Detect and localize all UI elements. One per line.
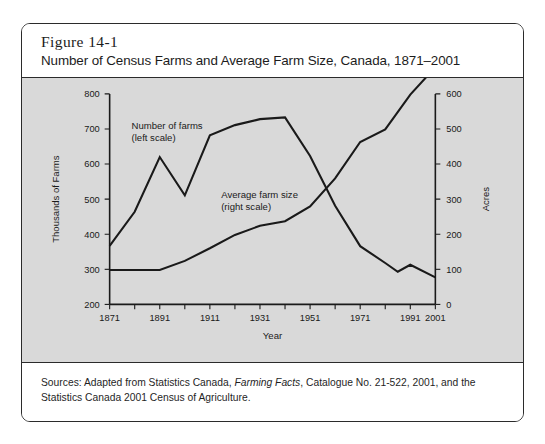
y-axis-left-title: Thousands of Farms <box>50 155 61 243</box>
x-axis-tick-label: 2001 <box>425 313 446 323</box>
source-publication-title: Farming Facts <box>234 377 300 388</box>
y-axis-left-tick-label: 700 <box>84 124 99 134</box>
y-axis-right-tick-label: 400 <box>446 159 461 169</box>
y-axis-right-tick-label: 0 <box>446 300 451 310</box>
page-title: Number of Census Farms and Average Farm … <box>41 51 523 70</box>
y-axis-right-tick-label: 100 <box>446 265 461 275</box>
x-axis-tick-label: 1891 <box>149 313 170 323</box>
y-axis-right-tick-label: 200 <box>446 230 461 240</box>
y-axis-left-tick-label: 200 <box>84 300 99 310</box>
source-note: Sources: Adapted from Statistics Canada,… <box>41 375 501 405</box>
y-axis-right-title: Acres <box>480 187 491 212</box>
figure-number: Figure 14-1 <box>41 32 523 51</box>
figure-source-band: Sources: Adapted from Statistics Canada,… <box>22 363 523 421</box>
x-axis-tick-label: 1911 <box>200 313 220 323</box>
series-annotation-average-farm-size: Average farm size <box>221 189 298 200</box>
y-axis-left-tick-label: 400 <box>84 230 99 240</box>
y-axis-left-tick-label: 300 <box>84 265 99 275</box>
chart-series <box>110 78 436 277</box>
source-prefix: Sources: Adapted from Statistics Canada, <box>41 377 234 388</box>
chart-plot-panel: 2003004005006007008000100200300400500600… <box>22 77 523 363</box>
x-axis-tick-label: 1871 <box>99 313 120 323</box>
x-axis-tick-label: 1971 <box>350 313 371 323</box>
y-axis-left-tick-label: 800 <box>84 89 99 99</box>
x-axis-tick-label: 1991 <box>400 313 421 323</box>
y-axis-right-tick-label: 600 <box>446 89 461 99</box>
series-annotation-average-farm-size-scale: (right scale) <box>221 201 271 212</box>
figure-title-band: Figure 14-1 Number of Census Farms and A… <box>22 24 523 77</box>
y-axis-right-tick-label: 300 <box>446 195 461 205</box>
chart-axes: 2003004005006007008000100200300400500600… <box>50 89 491 341</box>
x-axis-tick-label: 1931 <box>250 313 271 323</box>
x-axis-tick-label: 1951 <box>300 313 321 323</box>
series-line-average-farm-size <box>110 78 436 270</box>
y-axis-left-tick-label: 500 <box>84 195 99 205</box>
line-chart: 2003004005006007008000100200300400500600… <box>22 78 523 362</box>
series-annotation-number-of-farms-scale: (left scale) <box>132 132 176 143</box>
figure-card: Figure 14-1 Number of Census Farms and A… <box>21 23 524 422</box>
y-axis-right-tick-label: 500 <box>446 124 461 134</box>
series-annotation-number-of-farms: Number of farms <box>132 120 203 131</box>
x-axis-title: Year <box>263 330 283 341</box>
y-axis-left-tick-label: 600 <box>84 159 99 169</box>
